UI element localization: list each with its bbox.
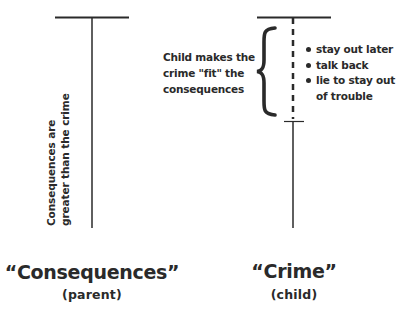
- curly-brace-icon: [257, 28, 275, 115]
- consequences-subtitle: (parent): [2, 287, 182, 302]
- vertical-note-line-2: greater than the crime: [58, 106, 72, 226]
- consequences-title: “Consequences”: [2, 261, 182, 283]
- consequences-vertical-note: Consequences are greater than the crime: [44, 106, 72, 226]
- bullet-text: stay out later: [316, 43, 393, 55]
- bullet-text: lie to stay out: [316, 74, 395, 86]
- child-side-note: Child makes the crime "fit" the conseque…: [163, 49, 255, 97]
- crime-title: “Crime”: [230, 260, 358, 282]
- bullet-continuation: of trouble: [306, 89, 395, 105]
- bullet-item: stay out later: [306, 42, 395, 58]
- bullet-item: talk back: [306, 58, 395, 74]
- bullet-item: lie to stay out: [306, 73, 395, 89]
- bullet-dot-icon: [306, 63, 311, 68]
- bullet-dot-icon: [306, 47, 311, 52]
- side-note-line-1: Child makes the: [163, 49, 255, 65]
- crime-subtitle: (child): [230, 287, 358, 302]
- side-note-line-3: consequences: [163, 81, 255, 97]
- bullet-text: talk back: [316, 59, 368, 71]
- vertical-note-line-1: Consequences are: [44, 106, 58, 226]
- side-note-line-2: crime "fit" the: [163, 65, 255, 81]
- bullet-dot-icon: [306, 78, 311, 83]
- crime-bullet-list: stay out later talk back lie to stay out…: [306, 42, 395, 104]
